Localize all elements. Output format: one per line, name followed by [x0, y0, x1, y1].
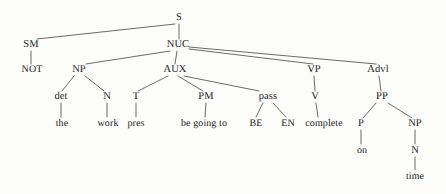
tree-node-NOT: NOT	[22, 65, 43, 75]
tree-node-N1: N	[103, 92, 111, 103]
tree-node-S: S	[176, 13, 182, 24]
syntax-tree-diagram: SSMNUCNOTNPAUXVPAdvldetNTPMpassVPPthewor…	[0, 0, 446, 194]
tree-node-AUX: AUX	[163, 65, 186, 76]
tree-edge-NUC-to-AUX	[175, 51, 177, 64]
tree-edge-AUX-to-PM	[178, 76, 203, 91]
tree-edge-PP-to-P	[363, 103, 376, 118]
tree-edge-NP1-to-det	[62, 76, 74, 91]
tree-node-NUC: NUC	[167, 40, 189, 51]
tree-node-EN: EN	[281, 119, 295, 129]
tree-node-complete: complete	[305, 119, 342, 129]
tree-node-Advl: Advl	[367, 65, 388, 76]
tree-edge-NUC-to-Advl	[189, 47, 376, 64]
tree-node-N2: N	[411, 146, 419, 157]
tree-edge-AUX-to-T	[138, 76, 168, 91]
tree-node-pres: pres	[127, 119, 144, 129]
tree-node-BE: BE	[250, 119, 263, 129]
tree-node-NP1: NP	[72, 65, 86, 76]
tree-node-V: V	[311, 92, 319, 103]
tree-edge-PM-to-begoingto	[205, 103, 206, 117]
tree-edge-pass-to-BE	[256, 103, 263, 117]
tree-edge-NP1-to-N1	[85, 76, 104, 91]
tree-node-det: det	[54, 92, 67, 103]
tree-node-on: on	[357, 146, 367, 156]
tree-node-the: the	[56, 119, 69, 129]
tree-node-PP: PP	[376, 92, 388, 103]
tree-edge-S-to-SM	[37, 24, 175, 39]
tree-edge-PP-to-NP2	[388, 103, 412, 118]
tree-node-work: work	[98, 119, 119, 129]
tree-node-begoingto: be going to	[181, 119, 227, 129]
tree-node-time: time	[406, 172, 424, 182]
tree-edge-VP-to-V	[314, 76, 315, 91]
tree-node-pass: pass	[259, 92, 277, 103]
tree-node-NP2: NP	[408, 119, 422, 130]
tree-edge-AUX-to-pass	[184, 76, 259, 91]
tree-node-T: T	[133, 92, 140, 103]
tree-node-P: P	[358, 119, 364, 130]
tree-node-PM: PM	[198, 92, 213, 103]
tree-edge-Advl-to-PP	[379, 76, 381, 91]
tree-edge-pass-to-EN	[273, 103, 286, 117]
tree-edge-V-to-complete	[316, 103, 318, 117]
tree-edge-NUC-to-NP1	[86, 51, 170, 64]
tree-node-SM: SM	[23, 40, 38, 51]
tree-node-VP: VP	[307, 65, 321, 76]
